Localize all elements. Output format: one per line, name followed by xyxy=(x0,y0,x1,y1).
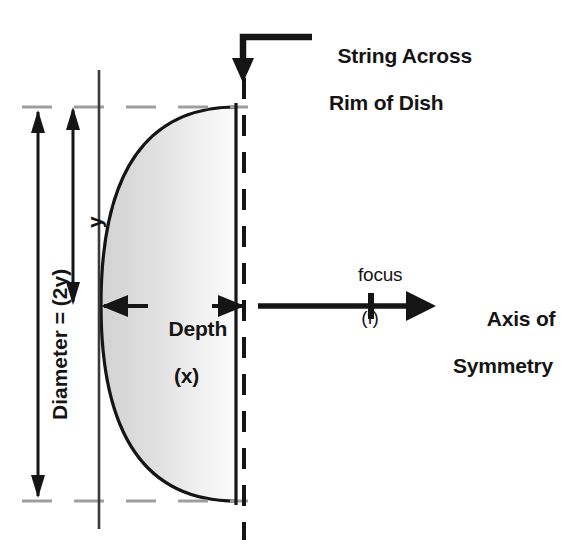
depth-label: Depth (x) xyxy=(146,293,227,434)
depth-line-2: (x) xyxy=(146,364,227,388)
string-across-rim-label: String Across Rim of Dish xyxy=(315,20,472,161)
string-label-pointer-arrow xyxy=(243,37,312,66)
string-across-line-2: Rim of Dish xyxy=(315,91,472,115)
focus-line-2: (f) xyxy=(337,307,403,328)
axis-of-symmetry-arrowhead xyxy=(406,291,436,321)
half-diameter-y-label: y xyxy=(83,216,107,228)
focus-line-1: focus xyxy=(358,264,402,285)
parabola-dish-diagram: String Across Rim of Dish Depth (x) focu… xyxy=(0,0,572,553)
string-label-arrowhead xyxy=(232,58,254,83)
diameter-label: Diameter = (2y) xyxy=(48,269,72,420)
depth-line-1: Depth xyxy=(169,317,228,340)
diameter-arrowhead-top xyxy=(31,110,45,133)
focus-label: focus (f) xyxy=(337,243,403,371)
y-arrowhead-top xyxy=(66,107,80,130)
diameter-arrowhead-bottom xyxy=(31,475,45,498)
diagram-canvas xyxy=(0,0,572,553)
axis-of-symmetry-line-2: Symmetry xyxy=(453,354,555,378)
axis-of-symmetry-line-1: Axis of xyxy=(487,307,556,330)
axis-of-symmetry-label: Axis of Symmetry xyxy=(465,283,555,424)
string-across-line-1: String Across xyxy=(338,44,472,67)
